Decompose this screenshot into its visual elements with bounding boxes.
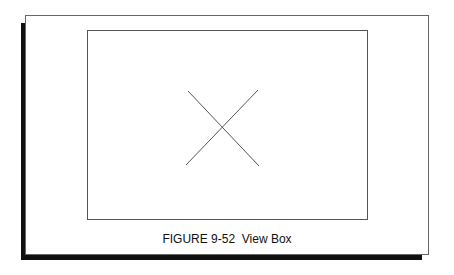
figure-caption: FIGURE 9-52 View Box [25, 232, 429, 246]
